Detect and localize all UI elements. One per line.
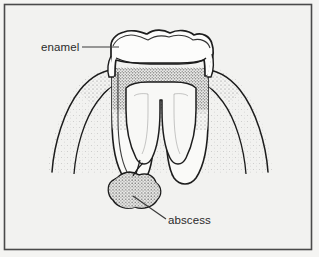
enamel-label: enamel — [41, 41, 79, 53]
figure-container: enamel abscess — [0, 0, 319, 257]
abscess-label: abscess — [168, 214, 211, 226]
tooth-abscess-diagram: enamel abscess — [0, 0, 319, 257]
